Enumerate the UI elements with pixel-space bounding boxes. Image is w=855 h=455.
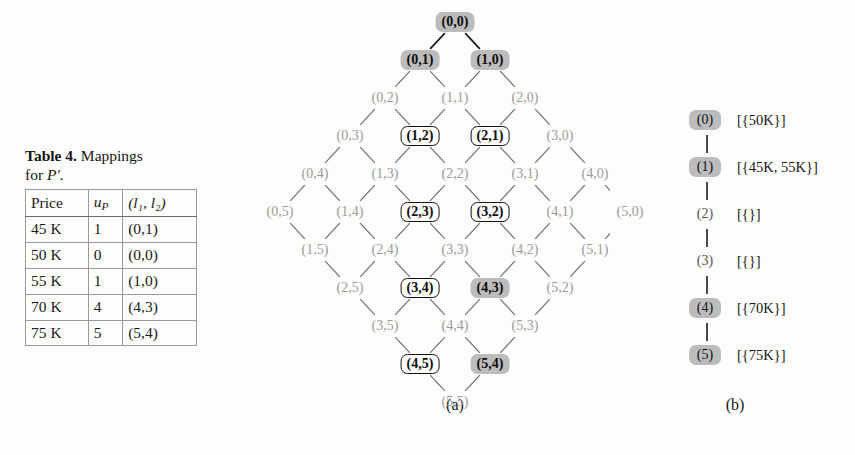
chain-item[interactable]: (2)[{}]: [689, 204, 761, 224]
lattice-edge: [465, 147, 480, 163]
lattice-node[interactable]: (5,3): [507, 316, 544, 336]
lattice-edge: [570, 223, 585, 239]
mappings-table: Price uP (l₁, l₂) 45 K1(0,1)50 K0(0,0)55…: [25, 189, 197, 347]
lattice-node[interactable]: (1,5): [297, 240, 334, 260]
table-cell-up: 1: [88, 217, 122, 243]
lattice-node[interactable]: (1,4): [332, 202, 369, 222]
lattice-edge: [570, 261, 585, 277]
chain-node-set: [{50K}]: [737, 112, 786, 129]
table-cell-price: 75 K: [26, 320, 89, 346]
chain-item[interactable]: (0)[{50K}]: [689, 110, 786, 130]
lattice-node[interactable]: (2,4): [367, 240, 404, 260]
lattice-node[interactable]: (5,1): [577, 240, 614, 260]
table-cell-up: 5: [88, 320, 122, 346]
table-caption-label: Table 4.: [25, 147, 77, 164]
lattice-node[interactable]: (4,3): [471, 278, 510, 298]
lattice-node[interactable]: (0,0): [436, 12, 475, 32]
chain-item[interactable]: (1)[{45K, 55K}]: [689, 157, 818, 177]
table-caption-symbol: P′: [47, 166, 60, 183]
lattice-edge: [325, 185, 340, 201]
table-cell-up: 1: [88, 268, 122, 294]
lattice-node[interactable]: (5,4): [471, 354, 510, 374]
lattice-edge: [500, 185, 515, 201]
table-row: 45 K1(0,1): [26, 217, 197, 243]
lattice-node[interactable]: (1,2): [401, 126, 440, 146]
table-caption-period: .: [60, 166, 64, 183]
lattice-edge: [430, 33, 445, 49]
chain-item[interactable]: (3)[{}]: [689, 251, 761, 271]
lattice-edge: [430, 375, 445, 391]
lattice-edge: [535, 299, 550, 315]
lattice-edge: [360, 109, 375, 125]
chain-node-set: [{70K}]: [737, 300, 786, 317]
lattice-edge: [395, 185, 410, 201]
lattice-edge: [395, 109, 410, 125]
lattice-node[interactable]: (4,1): [542, 202, 579, 222]
lattice-node[interactable]: (2,1): [471, 126, 510, 146]
lattice-node[interactable]: (1,3): [367, 164, 404, 184]
lattice-node[interactable]: (4,4): [437, 316, 474, 336]
lattice-node[interactable]: (3,0): [542, 126, 579, 146]
lattice-edge: [465, 337, 480, 353]
table-caption-text-1: Mappings: [81, 147, 143, 164]
lattice-node[interactable]: (0,5): [262, 202, 299, 222]
lattice-edge: [430, 147, 445, 163]
lattice-node[interactable]: (0,1): [401, 50, 440, 70]
chain-link: [706, 229, 708, 247]
lattice-node[interactable]: (3,4): [401, 278, 440, 298]
lattice-edge: [430, 261, 445, 277]
lattice-edge: [290, 223, 305, 239]
lattice-node[interactable]: (3,2): [471, 202, 510, 222]
table-cell-price: 70 K: [26, 294, 89, 320]
chain-node-label: (2): [689, 204, 721, 224]
table-cell-up: 0: [88, 243, 122, 269]
lattice-edge: [360, 299, 375, 315]
lattice-edge: [395, 147, 410, 163]
lattice-node[interactable]: (5,2): [542, 278, 579, 298]
lattice-node[interactable]: (4,5): [401, 354, 440, 374]
lattice-edge: [290, 185, 305, 201]
lattice-edge: [465, 223, 480, 239]
chain-node-label: (5): [689, 345, 721, 365]
table-cell-ll: (4,3): [123, 294, 197, 320]
lattice-edge: [465, 261, 480, 277]
table-cell-price: 55 K: [26, 268, 89, 294]
lattice-edge: [500, 223, 515, 239]
lattice-edge: [430, 337, 445, 353]
lattice-node[interactable]: (2,3): [401, 202, 440, 222]
table-cell-ll: (0,0): [123, 243, 197, 269]
lattice-node[interactable]: (3,1): [507, 164, 544, 184]
lattice-node[interactable]: (4,2): [507, 240, 544, 260]
lattice-edge: [535, 185, 550, 201]
lattice-edge: [465, 299, 480, 315]
lattice-node[interactable]: (5,5): [437, 392, 474, 412]
lattice-node[interactable]: (3,5): [367, 316, 404, 336]
lattice-node[interactable]: (1,1): [437, 88, 474, 108]
lattice-node[interactable]: (2,0): [507, 88, 544, 108]
chain-node-set: [{}]: [737, 206, 761, 223]
lattice-edge: [325, 223, 340, 239]
lattice-edge: [500, 109, 515, 125]
lattice-node[interactable]: (3,3): [437, 240, 474, 260]
lattice-edge: [465, 71, 480, 87]
lattice-node[interactable]: (1,0): [471, 50, 510, 70]
lattice-node[interactable]: (5,0): [612, 202, 649, 222]
lattice-node[interactable]: (0,3): [332, 126, 369, 146]
lattice-edge: [395, 71, 410, 87]
lattice-edge: [430, 71, 445, 87]
lattice-node[interactable]: (0,4): [297, 164, 334, 184]
lattice-node[interactable]: (0,2): [367, 88, 404, 108]
lattice-node[interactable]: (2,5): [332, 278, 369, 298]
lattice-node[interactable]: (2,2): [437, 164, 474, 184]
table-header-row: Price uP (l₁, l₂): [26, 189, 197, 217]
chain-item[interactable]: (4)[{70K}]: [689, 298, 786, 318]
table-row: 70 K4(4,3): [26, 294, 197, 320]
table-cell-up: 4: [88, 294, 122, 320]
lattice-edge: [360, 261, 375, 277]
lattice-node[interactable]: (4,0): [577, 164, 614, 184]
chain-node-set: [{45K, 55K}]: [737, 159, 818, 176]
chain-item[interactable]: (5)[{75K}]: [689, 345, 786, 365]
table-cell-ll: (0,1): [123, 217, 197, 243]
column-header-labels: (l₁, l₂): [123, 189, 197, 217]
lattice-diagram: (0,0)(0,1)(1,0)(0,2)(1,1)(2,0)(0,3)(1,2)…: [210, 0, 610, 400]
